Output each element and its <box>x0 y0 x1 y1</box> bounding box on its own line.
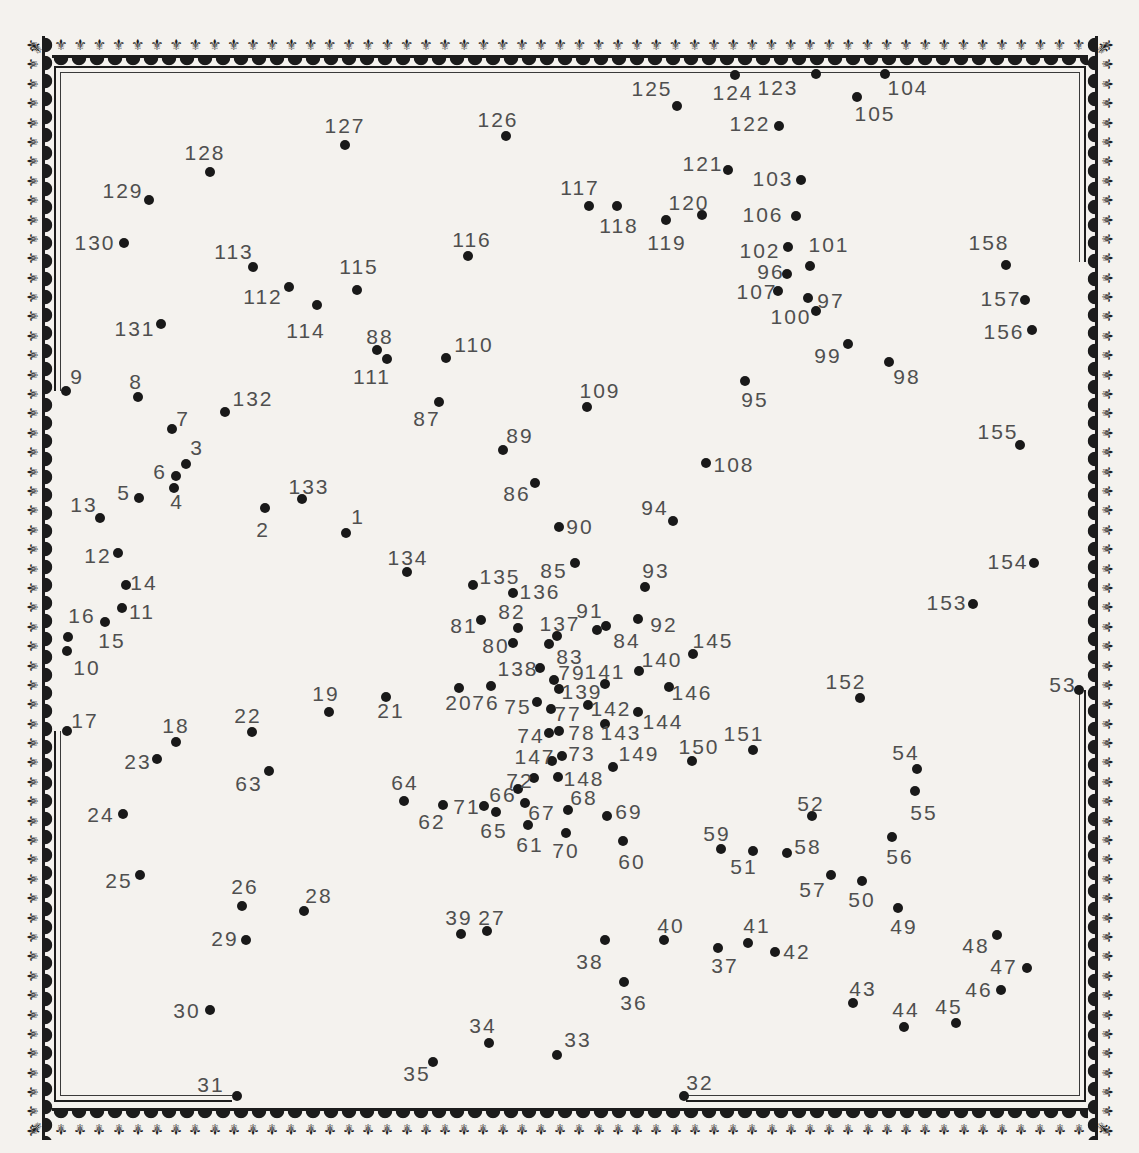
dot-number-label: 95 <box>741 388 768 412</box>
fleur-de-lis-icon: ⚜ <box>24 1083 42 1101</box>
dot-number-label: 147 <box>514 745 555 769</box>
fleur-de-lis-icon: ⚜ <box>1098 385 1116 403</box>
dot-number-label: 29 <box>211 927 238 951</box>
fleur-de-lis-icon: ⚜ <box>609 36 627 55</box>
dot-number-label: 49 <box>890 915 917 939</box>
puzzle-dot <box>743 938 753 948</box>
dot-number-label: 122 <box>729 112 770 136</box>
dot-number-label: 33 <box>564 1028 591 1052</box>
fleur-de-lis-icon: ⚜ <box>782 1119 800 1138</box>
fleur-de-lis-icon: ⚜ <box>1012 36 1030 55</box>
fleur-de-lis-icon: ⚜ <box>1098 792 1116 810</box>
puzzle-dot <box>852 92 862 102</box>
fleur-de-lis-icon: ⚜ <box>1098 1064 1116 1082</box>
fleur-de-lis-icon: ⚜ <box>263 36 281 55</box>
fleur-de-lis-icon: ⚜ <box>705 36 723 55</box>
fleur-de-lis-icon: ⚜ <box>1098 676 1116 694</box>
fleur-de-lis-icon: ⚜ <box>24 172 42 190</box>
puzzle-dot <box>554 522 564 532</box>
fleur-de-lis-icon: ⚜ <box>667 1119 685 1138</box>
puzzle-dot <box>640 582 650 592</box>
dot-number-label: 65 <box>480 819 507 843</box>
dot-number-label: 44 <box>892 998 919 1022</box>
dot-number-label: 23 <box>124 750 151 774</box>
fleur-de-lis-icon: ⚜ <box>1031 1119 1049 1138</box>
border-scallops-top <box>52 58 1088 66</box>
fleur-de-lis-icon: ⚜ <box>935 36 953 55</box>
dot-number-label: 52 <box>797 792 824 816</box>
fleur-de-lis-icon: ⚜ <box>24 75 42 93</box>
dot-number-label: 152 <box>825 670 866 694</box>
puzzle-dot <box>803 293 813 303</box>
puzzle-dot <box>570 558 580 568</box>
dot-number-label: 138 <box>497 657 538 681</box>
fleur-de-lis-icon: ⚜ <box>24 676 42 694</box>
fleur-de-lis-icon: ⚜ <box>24 249 42 267</box>
fleur-de-lis-icon: ⚜ <box>801 1119 819 1138</box>
puzzle-dot <box>434 397 444 407</box>
dot-number-label: 59 <box>703 822 730 846</box>
dot-number-label: 107 <box>736 280 777 304</box>
frame-segment <box>60 731 61 1096</box>
fleur-de-lis-icon: ⚜ <box>993 36 1011 55</box>
puzzle-dot <box>561 828 571 838</box>
fleur-de-lis-icon: ⚜ <box>1098 94 1116 112</box>
fleur-de-lis-icon: ⚜ <box>90 36 108 55</box>
fleur-de-lis-icon: ⚜ <box>1098 753 1116 771</box>
dot-number-label: 142 <box>590 697 631 721</box>
fleur-de-lis-icon: ⚜ <box>378 36 396 55</box>
fleur-de-lis-icon: ⚜ <box>1098 715 1116 733</box>
puzzle-dot <box>152 754 162 764</box>
fleur-de-lis-icon: ⚜ <box>801 36 819 55</box>
puzzle-dot <box>730 70 740 80</box>
fleur-de-lis-icon: ⚜ <box>974 36 992 55</box>
fleur-de-lis-icon: ⚜ <box>1098 579 1116 597</box>
fleur-de-lis-icon: ⚜ <box>1098 191 1116 209</box>
puzzle-dot <box>553 772 563 782</box>
dot-number-label: 104 <box>887 76 928 100</box>
fleur-de-lis-icon: ⚜ <box>1098 540 1116 558</box>
puzzle-dot <box>899 1022 909 1032</box>
dot-number-label: 54 <box>892 741 919 765</box>
fleur-de-lis-icon: ⚜ <box>302 1119 320 1138</box>
fleur-de-lis-icon: ⚜ <box>1098 734 1116 752</box>
puzzle-dot <box>996 985 1006 995</box>
dot-number-label: 140 <box>641 648 682 672</box>
dot-number-label: 146 <box>671 681 712 705</box>
fleur-de-lis-icon: ⚜ <box>24 947 42 965</box>
dot-number-label: 157 <box>980 287 1021 311</box>
fleur-de-lis-icon: ⚜ <box>148 1119 166 1138</box>
fleur-de-lis-icon: ⚜ <box>148 36 166 55</box>
fleur-de-lis-icon: ⚜ <box>513 1119 531 1138</box>
dot-number-label: 99 <box>814 344 841 368</box>
fleur-de-lis-icon: ⚜ <box>24 870 42 888</box>
fleur-de-lis-icon: ⚜ <box>24 1044 42 1062</box>
fleur-de-lis-icon: ⚜ <box>359 36 377 55</box>
fleur-de-lis-icon: ⚜ <box>570 36 588 55</box>
puzzle-dot <box>340 140 350 150</box>
border-scallops-left <box>45 36 53 1140</box>
puzzle-dot <box>584 201 594 211</box>
border-motif-column-right: ⚜⚜⚜⚜⚜⚜⚜⚜⚜⚜⚜⚜⚜⚜⚜⚜⚜⚜⚜⚜⚜⚜⚜⚜⚜⚜⚜⚜⚜⚜⚜⚜⚜⚜⚜⚜⚜⚜⚜⚜… <box>1098 36 1116 1140</box>
fleur-de-lis-icon: ⚜ <box>513 36 531 55</box>
fleur-de-lis-icon: ⚜ <box>24 288 42 306</box>
dot-number-label: 26 <box>231 875 258 899</box>
fleur-de-lis-icon: ⚜ <box>24 366 42 384</box>
puzzle-dot <box>783 242 793 252</box>
puzzle-dot <box>618 836 628 846</box>
puzzle-dot <box>951 1018 961 1028</box>
dot-number-label: 63 <box>235 772 262 796</box>
dot-number-label: 19 <box>312 682 339 706</box>
puzzle-dot <box>968 599 978 609</box>
fleur-de-lis-icon: ⚜ <box>1098 424 1116 442</box>
dot-number-label: 5 <box>117 481 131 505</box>
fleur-de-lis-icon: ⚜ <box>1031 36 1049 55</box>
puzzle-dot <box>723 165 733 175</box>
puzzle-dot <box>513 623 523 633</box>
dot-number-label: 105 <box>854 102 895 126</box>
puzzle-dot <box>557 751 567 761</box>
fleur-de-lis-icon: ⚜ <box>1098 695 1116 713</box>
puzzle-dot <box>893 903 903 913</box>
fleur-de-lis-icon: ⚜ <box>955 36 973 55</box>
dot-number-label: 118 <box>599 214 638 238</box>
